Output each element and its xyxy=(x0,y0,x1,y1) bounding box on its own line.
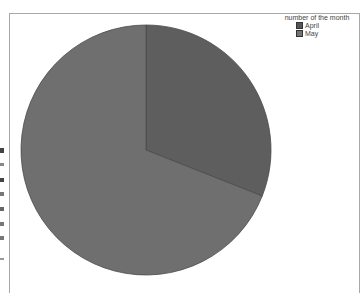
legend-swatch-april xyxy=(296,22,303,29)
legend-swatch-may xyxy=(296,30,303,37)
legend-item-april: April xyxy=(296,21,360,29)
legend: number of the month April May xyxy=(274,14,360,37)
legend-label-may: May xyxy=(305,30,318,37)
legend-item-may: May xyxy=(296,29,360,37)
legend-title: number of the month xyxy=(274,14,360,21)
pie-slices xyxy=(21,25,271,275)
legend-label-april: April xyxy=(305,22,319,29)
